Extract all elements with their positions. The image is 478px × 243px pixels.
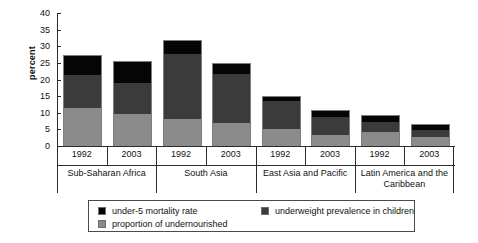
legend-item-underweight-prevalence: underweight prevalence in children: [261, 206, 414, 216]
x-axis-year-label: 1992: [256, 149, 306, 159]
chart-legend: under-5 mortality rate underweight preva…: [88, 200, 415, 232]
y-axis-title: percent: [27, 23, 37, 103]
bar-south-asia-1992: [163, 40, 202, 146]
bar-segment-proportion-of-undernourished: [114, 114, 151, 146]
legend-label: underweight prevalence in children: [275, 206, 414, 216]
bar-segment-proportion-of-undernourished: [362, 132, 399, 146]
bar-segment-proportion-of-undernourished: [64, 108, 101, 146]
bar-segment-proportion-of-undernourished: [312, 135, 349, 146]
x-axis-group-label: Latin America and the Caribbean: [355, 168, 454, 190]
legend-item-undernourished: proportion of undernourished: [98, 219, 228, 229]
legend-label: proportion of undernourished: [112, 219, 228, 229]
bar-sub-saharan-africa-1992: [63, 55, 102, 146]
bar-segment-under-5-mortality-rate: [114, 62, 151, 83]
bar-segment-underweight-prevalence-in-children: [213, 74, 250, 123]
bar-south-asia-2003: [212, 63, 251, 146]
x-axis-year-label: 1992: [156, 149, 206, 159]
bar-segment-underweight-prevalence-in-children: [312, 117, 349, 135]
x-axis-year-label: 1992: [57, 149, 107, 159]
bar-east-asia-and-pacific-2003: [311, 110, 350, 146]
legend-label: under-5 mortality rate: [112, 206, 198, 216]
bar-segment-under-5-mortality-rate: [64, 56, 101, 76]
plot-area: 0510152025303540: [57, 13, 455, 146]
bar-segment-underweight-prevalence-in-children: [64, 75, 101, 108]
x-axis-year-label: 2003: [206, 149, 256, 159]
bar-latin-america-and-the-caribbean-2003: [411, 124, 450, 146]
bar-segment-underweight-prevalence-in-children: [164, 54, 201, 119]
bar-segment-proportion-of-undernourished: [412, 137, 449, 146]
bar-segment-underweight-prevalence-in-children: [263, 101, 300, 129]
bar-sub-saharan-africa-2003: [113, 61, 152, 146]
legend-swatch-icon: [98, 207, 106, 215]
x-axis-group-label: South Asia: [156, 168, 255, 179]
x-axis-group-label: Sub-Saharan Africa: [57, 168, 156, 179]
bar-segment-underweight-prevalence-in-children: [114, 83, 151, 114]
bar-segment-under-5-mortality-rate: [213, 64, 250, 74]
x-axis-year-label: 1992: [355, 149, 405, 159]
x-axis-year-label: 2003: [305, 149, 355, 159]
legend-swatch-icon: [261, 207, 269, 215]
x-axis-category-band: 19922003Sub-Saharan Africa19922003South …: [57, 146, 455, 193]
bar-segment-proportion-of-undernourished: [164, 119, 201, 146]
x-axis-year-label: 2003: [107, 149, 157, 159]
bar-east-asia-and-pacific-1992: [262, 96, 301, 146]
legend-item-under5-mortality: under-5 mortality rate: [98, 206, 198, 216]
x-axis-group-label: East Asia and Pacific: [256, 168, 355, 179]
bar-segment-under-5-mortality-rate: [164, 41, 201, 54]
x-axis-year-label: 2003: [404, 149, 454, 159]
bar-segment-underweight-prevalence-in-children: [412, 130, 449, 137]
bar-segment-proportion-of-undernourished: [263, 129, 300, 146]
bar-series-container: [58, 13, 455, 146]
bar-segment-proportion-of-undernourished: [213, 123, 250, 146]
stacked-bar-chart: percent 0510152025303540 19922003Sub-Sah…: [0, 0, 478, 243]
bar-segment-underweight-prevalence-in-children: [362, 122, 399, 133]
bar-latin-america-and-the-caribbean-1992: [361, 115, 400, 146]
legend-swatch-icon: [98, 220, 106, 228]
